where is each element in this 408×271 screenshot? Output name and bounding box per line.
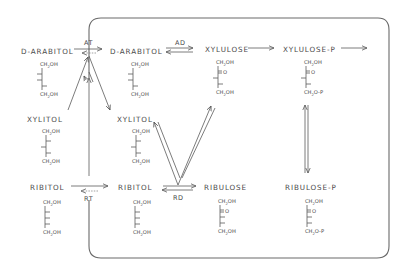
svg-text:CH2OH: CH2OH	[43, 229, 61, 237]
svg-text:O: O	[225, 208, 229, 214]
label-ribitol-outside: RIBITOL	[30, 183, 65, 192]
label-xylitol-outside: XYLITOL	[27, 115, 63, 124]
arrow-v-right-outer	[178, 106, 211, 185]
label-d-arabitol-outside: D-ARABITOL	[21, 47, 74, 56]
svg-text:CH2OH: CH2OH	[131, 61, 149, 69]
svg-text:CH2OH: CH2OH	[40, 91, 58, 99]
svg-text:CH2OH: CH2OH	[216, 59, 234, 67]
structure-ribitol-inside: CH2OH CH2OH	[133, 199, 151, 237]
arrow-v-left-outer	[154, 122, 178, 185]
svg-text:CH2O-P: CH2O-P	[304, 89, 323, 97]
structure-ribulose: CH2OH O CH2OH	[218, 198, 236, 236]
label-d-arabitol-inside: D-ARABITOL	[110, 47, 163, 56]
structure-ribitol-outside: CH2OH CH2OH	[43, 199, 61, 237]
svg-text:O: O	[223, 69, 227, 75]
svg-text:CH2OH: CH2OH	[42, 158, 60, 166]
label-xylulose: XYLULOSE	[205, 45, 249, 54]
enzyme-ad: AD	[175, 39, 186, 47]
svg-text:CH2OH: CH2OH	[133, 229, 151, 237]
label-xylulose-p: XYLULOSE-P	[283, 45, 336, 54]
arrow-at-inner-small-2	[84, 76, 86, 80]
structure-xylitol-inside: CH2OH CH2OH	[131, 128, 150, 166]
pentitol-pathway-diagram: D-ARABITOL XYLITOL RIBITOL D-ARABITOL XY…	[0, 0, 408, 271]
arrow-v-left-inner	[158, 122, 180, 178]
svg-text:CH2OH: CH2OH	[304, 59, 322, 67]
svg-text:CH2OH: CH2OH	[43, 199, 61, 207]
enzyme-rt: RT	[84, 195, 93, 203]
arrow-at-to-xylitol-in	[89, 56, 110, 110]
svg-text:CH2OH: CH2OH	[132, 158, 150, 166]
svg-text:CH2OH: CH2OH	[305, 198, 323, 206]
svg-text:CH2OH: CH2OH	[42, 128, 60, 136]
svg-text:O: O	[312, 208, 316, 214]
svg-text:CH2OH: CH2OH	[40, 61, 58, 69]
svg-text:CH2OH: CH2OH	[216, 89, 234, 97]
structure-d-arabitol-inside: CH2OH CH2OH	[128, 61, 149, 99]
structure-d-arabitol-outside: CH2OH CH2OH	[37, 61, 58, 99]
svg-text:O: O	[311, 69, 315, 75]
svg-text:CH2OH: CH2OH	[131, 91, 149, 99]
structure-xylitol-outside: CH2OH CH2OH	[41, 128, 60, 166]
svg-text:CH2OH: CH2OH	[218, 228, 236, 236]
structure-ribulose-p: CH2OH O CH2O-P	[305, 198, 324, 236]
svg-text:CH2OH: CH2OH	[218, 198, 236, 206]
svg-text:CH2OH: CH2OH	[132, 128, 150, 136]
svg-text:CH2O-P: CH2O-P	[305, 228, 324, 236]
structure-xylulose: CH2OH O CH2OH	[213, 59, 234, 97]
enzyme-rd: RD	[173, 194, 184, 202]
label-ribulose-p: RIBULOSE-P	[285, 183, 337, 192]
arrow-at-inner-small	[89, 72, 93, 82]
enzyme-at: AT	[84, 39, 93, 47]
svg-text:CH2OH: CH2OH	[133, 199, 151, 207]
arrow-v-right-inner	[182, 108, 215, 178]
label-ribitol-inside: RIBITOL	[118, 183, 153, 192]
arrow-xylitol-out-to-at	[68, 57, 88, 110]
structure-xylulose-p: CH2OH O CH2O-P	[301, 59, 323, 97]
label-ribulose: RIBULOSE	[204, 183, 247, 192]
label-xylitol-inside: XYLITOL	[117, 115, 153, 124]
